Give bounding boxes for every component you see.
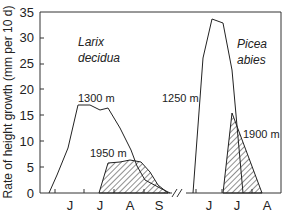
y-tick-35: 35: [20, 5, 34, 20]
x-tick-jun-2: J: [206, 198, 213, 212]
series-label-1950m: 1950 m: [90, 147, 127, 159]
series-label-1250m: 1250 m: [162, 92, 199, 104]
y-tick-0: 0: [27, 186, 34, 201]
y-axis-label: Rate of height growth (mm per 10 d): [1, 6, 15, 199]
species-label-larix-2: decidua: [78, 51, 120, 65]
x-tick-jul-2: J: [234, 198, 241, 212]
axis-break-icon: [172, 189, 182, 197]
x-tick-jul-1: J: [97, 198, 104, 212]
x-tick-jun-1: J: [67, 198, 74, 212]
y-tick-20: 20: [20, 82, 34, 97]
y-tick-10: 10: [20, 134, 34, 149]
y-tick-labels: 0 5 10 15 20 25 30 35: [20, 5, 34, 201]
species-label-larix: Larix: [78, 35, 105, 49]
x-tick-labels: J J A S J J A: [67, 198, 272, 212]
larix-1950m-area: [99, 160, 168, 193]
growth-chart: Rate of height growth (mm per 10 d) 0 5 …: [0, 0, 289, 212]
y-tick-25: 25: [20, 56, 34, 71]
x-tick-sep-1: S: [155, 198, 164, 212]
species-label-picea: Picea: [237, 37, 267, 51]
x-tick-aug-2: A: [263, 198, 272, 212]
x-tick-aug-1: A: [126, 198, 135, 212]
picea-1900m-area: [223, 113, 262, 193]
series-label-1900m: 1900 m: [243, 128, 280, 140]
y-tick-15: 15: [20, 108, 34, 123]
series-label-1300m: 1300 m: [78, 92, 115, 104]
y-tick-5: 5: [27, 160, 34, 175]
y-tick-30: 30: [20, 30, 34, 45]
species-label-picea-2: abies: [237, 53, 266, 67]
